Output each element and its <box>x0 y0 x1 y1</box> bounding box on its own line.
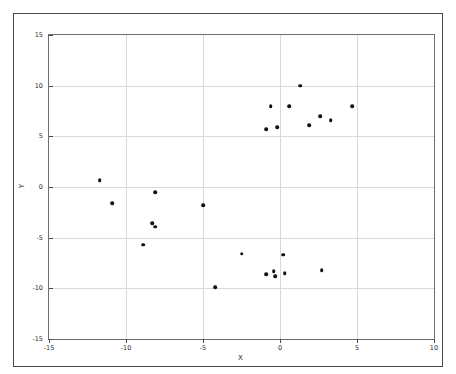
data-point <box>153 225 157 229</box>
data-point <box>98 178 102 182</box>
x-tick-label: 10 <box>430 344 438 352</box>
y-tick-label: 0 <box>39 183 43 191</box>
x-tick-mark <box>126 339 127 343</box>
data-point <box>264 127 268 131</box>
data-point <box>283 271 287 275</box>
data-point <box>307 123 311 127</box>
x-tick-label: 0 <box>278 344 282 352</box>
y-tick-label: 15 <box>35 31 43 39</box>
data-point <box>110 201 114 205</box>
data-point <box>272 269 276 273</box>
data-point <box>274 274 278 278</box>
x-tick-mark <box>280 339 281 343</box>
data-point <box>201 203 205 207</box>
x-tick-label: -10 <box>121 344 132 352</box>
gridline-horizontal <box>49 288 434 289</box>
data-point <box>214 286 218 290</box>
x-tick-mark <box>357 339 358 343</box>
y-tick-label: 5 <box>39 132 43 140</box>
data-point <box>240 252 244 256</box>
x-tick-label: -5 <box>200 344 206 352</box>
x-axis-label: X <box>48 354 433 362</box>
data-point <box>141 243 145 247</box>
data-point <box>351 104 355 108</box>
y-tick-mark <box>49 86 53 87</box>
data-point <box>329 118 333 122</box>
x-tick-mark <box>203 339 204 343</box>
data-point <box>320 268 324 272</box>
y-tick-label: 10 <box>35 82 43 90</box>
y-tick-mark <box>49 187 53 188</box>
data-point <box>298 84 302 88</box>
y-tick-mark <box>49 35 53 36</box>
y-tick-mark <box>49 136 53 137</box>
y-tick-mark <box>49 339 53 340</box>
data-point <box>287 104 291 108</box>
x-tick-label: -15 <box>44 344 55 352</box>
data-point <box>264 272 268 276</box>
figure-canvas: -15-10-50510 -15-10-5051015 X Y <box>13 13 443 367</box>
gridline-horizontal <box>49 86 434 87</box>
y-axis-label: Y <box>20 34 24 338</box>
y-tick-label: -10 <box>32 284 43 292</box>
data-point <box>153 190 157 194</box>
gridline-horizontal <box>49 238 434 239</box>
data-point <box>281 253 285 257</box>
data-point <box>269 104 273 108</box>
y-tick-label: -5 <box>37 234 43 242</box>
scatter-plot-axes: -15-10-50510 -15-10-5051015 <box>48 34 435 340</box>
x-tick-mark <box>434 339 435 343</box>
y-axis-label-text: Y <box>18 184 26 188</box>
data-point <box>275 125 279 129</box>
y-tick-label: -15 <box>32 335 43 343</box>
x-tick-label: 5 <box>355 344 359 352</box>
gridline-horizontal <box>49 136 434 137</box>
y-tick-mark <box>49 238 53 239</box>
y-tick-mark <box>49 288 53 289</box>
data-point <box>318 114 322 118</box>
gridline-horizontal <box>49 187 434 188</box>
